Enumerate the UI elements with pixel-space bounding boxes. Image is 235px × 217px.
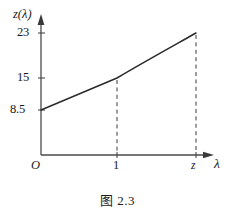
y-axis-label: z(λ) (13, 8, 32, 21)
x-tick-label-z: z (191, 160, 195, 172)
x-axis-arrow-icon (203, 152, 214, 159)
y-tick-label-8-5: 8.5 (10, 103, 25, 116)
y-tick-label-23: 23 (17, 26, 29, 39)
chart-plot-area (0, 0, 235, 217)
figure-caption: 图 2.3 (0, 190, 235, 209)
figure-container: z(λ) λ 23 15 8.5 O 1 z 图 2.3 (0, 0, 235, 217)
x-axis-label: λ (214, 157, 220, 171)
y-axis-arrow-icon (38, 14, 45, 25)
data-series-line (41, 33, 196, 110)
y-tick-label-15: 15 (17, 71, 29, 84)
x-tick-label-1: 1 (113, 159, 119, 172)
origin-label: O (31, 159, 40, 172)
